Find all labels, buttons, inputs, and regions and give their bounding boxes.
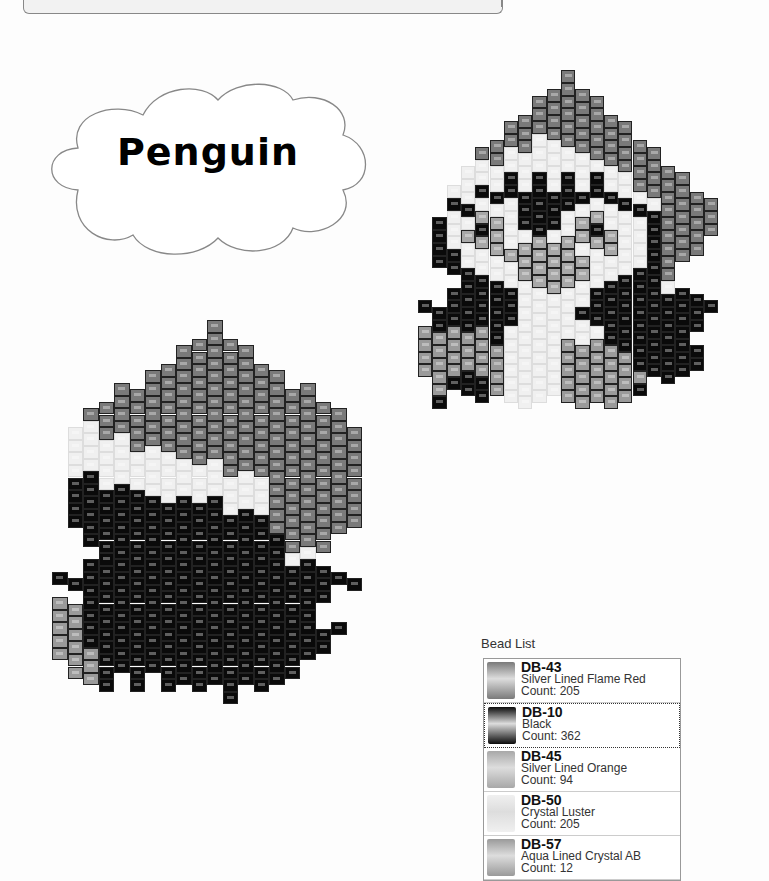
bead-swatch-icon [487,795,515,832]
bead-cell [238,572,254,585]
bead-cell [130,654,146,667]
bead-cell [690,204,704,217]
bead-item[interactable]: DB-50 Crystal Luster Count: 205 [484,792,680,836]
bead-cell [176,509,192,522]
bead-cell [561,198,575,211]
bead-cell [269,547,285,560]
bead-cell [300,597,316,610]
bead-cell [114,635,130,648]
bead-cell [561,249,575,262]
bead-cell [145,383,161,396]
bead-cell [575,371,589,384]
bead-cell [447,326,461,339]
bead-cell [604,217,618,230]
bead-cell [561,83,575,96]
bead-cell [130,641,146,654]
bead-cell [114,396,130,409]
bead-cell [68,641,84,654]
bead-cell [518,371,532,384]
bead-cell [532,390,546,403]
bead-cell [518,256,532,269]
bead-cell [192,427,208,440]
bead-cell [504,326,518,339]
bead-cell [316,541,332,554]
bead-cell [161,667,177,680]
bead-cell [207,622,223,635]
bead-cell [532,249,546,262]
bead-cell [285,591,301,604]
bead-cell [704,224,718,237]
bead-cell [518,204,532,217]
bead-cell [161,641,177,654]
bead-item[interactable]: DB-45 Silver Lined Orange Count: 94 [484,748,680,792]
bead-cell [518,153,532,166]
bead-cell [238,345,254,358]
bead-cell [532,147,546,160]
bead-cell [704,211,718,224]
bead-cell [145,572,161,585]
bead-cell [161,629,177,642]
bead-cell [161,604,177,617]
bead-cell [590,288,604,301]
bead-cell [300,622,316,635]
bead-cell [176,585,192,598]
bead-cell [590,185,604,198]
bead-cell [661,371,675,384]
bead-cell [176,648,192,661]
bead-cell [604,320,618,333]
bead-cell [532,339,546,352]
bead-cell [575,307,589,320]
bead-cell [254,440,270,453]
bead-cell [633,358,647,371]
bead-cell [269,572,285,585]
bead-cell [490,153,504,166]
bead-cell [690,294,704,307]
bead-item[interactable]: DB-43 Silver Lined Flame Red Count: 205 [484,659,680,703]
bead-cell [223,566,239,579]
bead-cell [316,641,332,654]
bead-cell [192,629,208,642]
bead-cell [114,648,130,661]
bead-cell [254,452,270,465]
bead-cell [518,128,532,141]
bead-cell [432,256,446,269]
bead-cell [300,446,316,459]
bead-cell [176,433,192,446]
bead-cell [490,179,504,192]
bead-cell [223,478,239,491]
bead-cell [604,332,618,345]
bead-cell [161,364,177,377]
bead-cell [99,440,115,453]
bead-cell [547,166,561,179]
bead-cell [490,192,504,205]
bead-cell [316,528,332,541]
bead-cell [590,390,604,403]
bead-cell [518,320,532,333]
bead-cell [161,515,177,528]
bead-cell [52,597,68,610]
bead-cell [176,446,192,459]
bead-cell [99,490,115,503]
bead-cell [547,128,561,141]
bead-cell [161,377,177,390]
bead-cell [192,578,208,591]
bead-cell [561,326,575,339]
bead-cell [99,478,115,491]
bead-cell [575,396,589,409]
bead-cell [504,364,518,377]
bead-cell [504,377,518,390]
bead-cell [238,547,254,560]
bead-cell [223,528,239,541]
bead-item[interactable]: DB-57 Aqua Lined Crystal AB Count: 12 [484,836,680,880]
bead-item[interactable]: DB-10 Black Count: 362 [484,703,680,748]
bead-cell [83,509,99,522]
bead-cell [633,166,647,179]
bead-cell [300,635,316,648]
bead-cell [604,140,618,153]
bead-cell [238,358,254,371]
bead-cell [647,300,661,313]
bead-cell [532,352,546,365]
bead-cell [207,320,223,333]
bead-cell [68,490,84,503]
bead-cell [590,275,604,288]
